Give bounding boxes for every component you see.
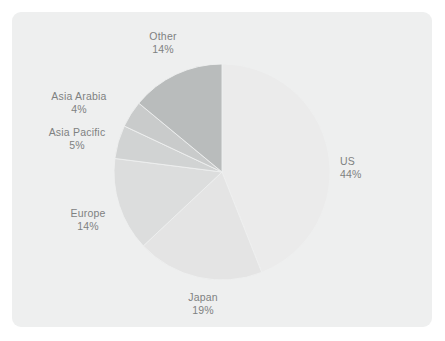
pie-chart-figure: US 44% Japan 19% Europe 14% Asia Pacific…: [0, 0, 445, 341]
pie-label-us-name: US: [340, 155, 362, 168]
pie-label-asia-arabia: Asia Arabia 4%: [38, 90, 120, 115]
pie-label-japan: Japan 19%: [168, 291, 238, 316]
pie-label-other: Other 14%: [130, 30, 196, 55]
pie-label-asia-pacific-name: Asia Pacific: [36, 126, 118, 139]
pie-label-us-value: 44%: [340, 168, 362, 181]
pie-label-other-name: Other: [130, 30, 196, 43]
pie-label-asia-arabia-name: Asia Arabia: [38, 90, 120, 103]
pie-label-europe-value: 14%: [53, 220, 123, 233]
pie-label-asia-pacific-value: 5%: [36, 139, 118, 152]
pie-slices-group: [114, 64, 330, 280]
pie-label-other-value: 14%: [130, 43, 196, 56]
pie-label-japan-name: Japan: [168, 291, 238, 304]
pie-label-asia-arabia-value: 4%: [38, 103, 120, 116]
pie-label-europe-name: Europe: [53, 207, 123, 220]
pie-label-asia-pacific: Asia Pacific 5%: [36, 126, 118, 151]
pie-chart-canvas: [0, 0, 445, 341]
pie-label-us: US 44%: [340, 155, 362, 180]
pie-label-japan-value: 19%: [168, 304, 238, 317]
pie-label-europe: Europe 14%: [53, 207, 123, 232]
